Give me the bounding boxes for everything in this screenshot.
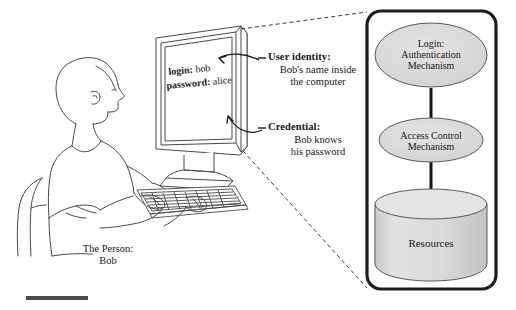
node-resources-label: Resources xyxy=(381,237,481,249)
callout-user-identity-title: User identity: xyxy=(268,51,372,63)
node-authentication-label: Login: Authentication Mechanism xyxy=(381,38,481,72)
callout-credential-body: Bob knows his password xyxy=(262,134,374,158)
callout-user-identity-body: Bob's name inside the computer xyxy=(262,64,374,88)
bottom-rule xyxy=(26,296,88,300)
callout-credential-title: Credential: xyxy=(268,121,372,133)
person-illustration xyxy=(17,58,166,256)
monitor-illustration xyxy=(156,26,247,190)
screen-login-label: login: xyxy=(168,64,193,77)
figure-canvas: login: bob password: alice User identity… xyxy=(0,0,516,310)
node-resources-shape xyxy=(375,189,487,281)
keyboard-illustration xyxy=(137,186,248,218)
person-label: The Person: Bob xyxy=(48,243,168,267)
node-access-control-label: Access Control Mechanism xyxy=(381,130,481,152)
screen-password-value: alice xyxy=(212,74,232,87)
screen-login-value: bob xyxy=(195,62,211,74)
